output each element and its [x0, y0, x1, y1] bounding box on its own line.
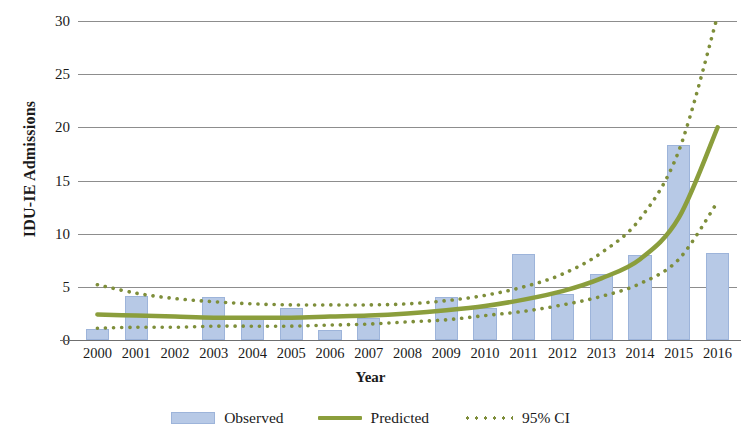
legend-label: Observed — [224, 409, 283, 427]
x-tick-label: 2010 — [471, 345, 500, 362]
ci-lower-dotted-line — [97, 202, 717, 329]
y-axis-tick-labels: 302520151050 — [26, 0, 70, 360]
x-tick-label: 2006 — [315, 345, 344, 362]
y-tick-label: 30 — [55, 14, 70, 29]
plot-area — [78, 21, 737, 340]
y-tick-label: 10 — [55, 226, 70, 241]
legend-label: Predicted — [371, 409, 430, 427]
y-tick-label: 5 — [63, 279, 71, 294]
y-tick-label: 25 — [55, 67, 70, 82]
x-tick-label: 2001 — [122, 345, 151, 362]
x-tick-label: 2002 — [160, 345, 189, 362]
x-tick-label: 2012 — [548, 345, 577, 362]
x-tick-label: 2011 — [510, 345, 538, 362]
x-tick-label: 2016 — [703, 345, 732, 362]
x-axis-title: Year — [0, 369, 741, 386]
legend-dotted-line-icon — [463, 416, 513, 420]
x-tick-label: 2015 — [664, 345, 693, 362]
legend-solid-line-icon — [318, 416, 362, 420]
x-tick-label: 2008 — [393, 345, 422, 362]
x-tick-label: 2000 — [83, 345, 112, 362]
x-tick-label: 2014 — [626, 345, 655, 362]
ci-upper-dotted-line — [97, 21, 717, 305]
legend-label: 95% CI — [522, 409, 570, 427]
chart-figure: IDU-IE Admissions 302520151050 200020012… — [0, 0, 741, 439]
legend-item: 95% CI — [463, 409, 570, 427]
x-axis-line — [60, 340, 741, 341]
y-tick-label: 15 — [55, 173, 70, 188]
y-tick-label: 20 — [55, 120, 70, 135]
line-series-overlay — [78, 21, 737, 340]
x-axis-tick-labels: 2000200120022003200420052006200720082009… — [78, 345, 737, 367]
x-tick-label: 2003 — [199, 345, 228, 362]
x-tick-label: 2009 — [432, 345, 461, 362]
legend-item: Observed — [171, 409, 283, 427]
predicted-line — [97, 127, 717, 317]
legend-bar-swatch-icon — [171, 412, 215, 424]
legend-item: Predicted — [318, 409, 430, 427]
x-tick-label: 2013 — [587, 345, 616, 362]
x-tick-label: 2004 — [238, 345, 267, 362]
x-tick-label: 2007 — [354, 345, 383, 362]
chart-legend: ObservedPredicted95% CI — [0, 409, 741, 427]
x-tick-label: 2005 — [277, 345, 306, 362]
